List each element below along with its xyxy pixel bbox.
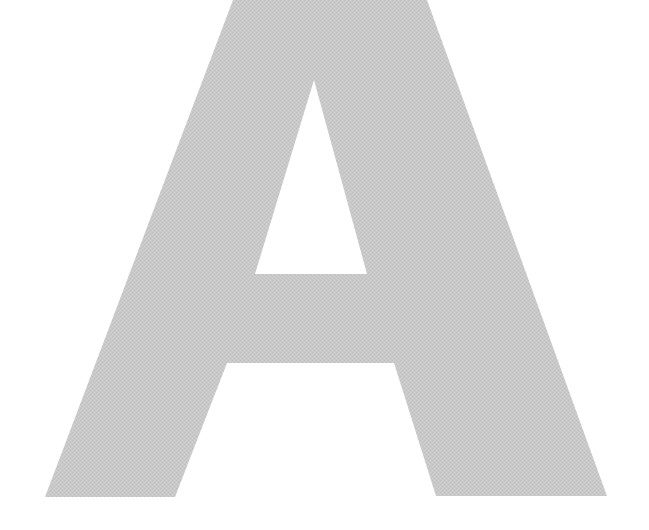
letter-a-shape	[45, 0, 607, 497]
letter-a-icon	[0, 0, 649, 530]
glyph-canvas: A	[0, 0, 649, 530]
